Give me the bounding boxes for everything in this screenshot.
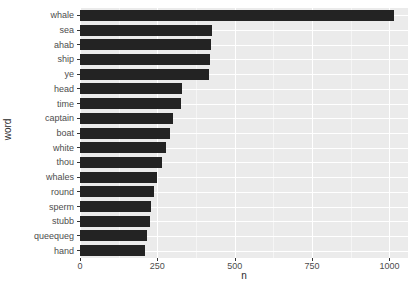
y-axis-tick: hand <box>16 244 80 258</box>
y-axis-tick: boat <box>16 126 80 140</box>
bar <box>80 201 151 212</box>
x-axis-title: n <box>80 270 408 284</box>
y-axis-tick-label: queequeg <box>34 231 77 241</box>
bar <box>80 230 147 241</box>
x-axis-title-text: n <box>241 270 247 281</box>
bar <box>80 69 209 80</box>
y-axis-tick: ahab <box>16 38 80 52</box>
bar <box>80 142 166 153</box>
y-axis-tick-label: captain <box>45 113 77 123</box>
bar <box>80 39 211 50</box>
y-axis-tick: head <box>16 82 80 96</box>
y-axis-tick-label: round <box>51 187 77 197</box>
y-axis-tick-label: sperm <box>49 202 77 212</box>
y-axis-tick: queequeg <box>16 229 80 243</box>
y-axis-tick-labels: whaleseaahabshipyeheadtimecaptainboatwhi… <box>16 8 80 258</box>
plot-panel <box>80 8 408 258</box>
y-axis-tick: time <box>16 97 80 111</box>
bar <box>80 98 181 109</box>
bar <box>80 25 212 36</box>
y-axis-tick: whale <box>16 8 80 22</box>
bar <box>80 157 162 168</box>
bar <box>80 172 157 183</box>
y-axis-tick: thou <box>16 155 80 169</box>
y-axis-tick: ship <box>16 52 80 66</box>
y-axis-tick-label: sea <box>59 25 77 35</box>
y-axis-tick-label: thou <box>56 157 77 167</box>
y-axis-tick: whales <box>16 170 80 184</box>
y-axis-tick-label: ahab <box>54 40 77 50</box>
bar <box>80 245 145 256</box>
bar <box>80 113 173 124</box>
y-axis-tick-label: ye <box>64 69 77 79</box>
y-axis-tick: sea <box>16 23 80 37</box>
y-axis-title-text: word <box>3 118 14 140</box>
y-axis-tick-label: ship <box>57 54 77 64</box>
y-axis-title: word <box>0 0 16 258</box>
y-axis-tick-label: white <box>53 143 77 153</box>
y-axis-tick-label: head <box>54 84 77 94</box>
bar <box>80 10 394 21</box>
y-axis-tick-label: hand <box>54 246 77 256</box>
bar-chart: word whaleseaahabshipyeheadtimecaptainbo… <box>0 0 420 289</box>
y-axis-tick: stubb <box>16 214 80 228</box>
y-axis-tick-label: stubb <box>52 216 77 226</box>
bar <box>80 83 182 94</box>
y-axis-tick: ye <box>16 67 80 81</box>
bar <box>80 128 170 139</box>
bar <box>80 186 154 197</box>
y-axis-tick: captain <box>16 111 80 125</box>
y-axis-tick-label: whale <box>50 10 77 20</box>
y-axis-tick: round <box>16 185 80 199</box>
y-axis-tick-label: whales <box>46 172 77 182</box>
bar <box>80 54 210 65</box>
y-axis-tick-label: time <box>57 99 77 109</box>
y-axis-tick: sperm <box>16 200 80 214</box>
bar <box>80 216 150 227</box>
y-axis-tick: white <box>16 141 80 155</box>
y-axis-tick-label: boat <box>56 128 77 138</box>
